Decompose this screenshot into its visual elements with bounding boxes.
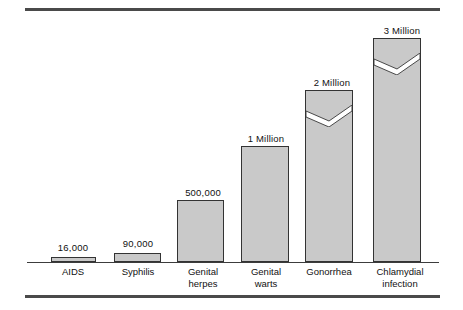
- category-label-genital-warts-line1: Genital: [251, 266, 281, 277]
- value-label-genital-herpes: 500,000: [165, 187, 241, 198]
- bar-gonorrhea[interactable]: [305, 90, 353, 262]
- bar-genital-herpes[interactable]: [177, 200, 224, 262]
- category-label-genital-herpes-line1: Genital: [188, 266, 218, 277]
- bar-syphilis[interactable]: [114, 253, 161, 262]
- category-label-chlamydial-infection-line2: infection: [358, 278, 442, 290]
- category-label-aids-line1: AIDS: [62, 266, 84, 277]
- category-label-gonorrhea: Gonorrhea: [289, 266, 369, 278]
- category-label-syphilis-line1: Syphilis: [122, 266, 155, 277]
- value-label-aids: 16,000: [40, 242, 106, 253]
- category-label-chlamydial-infection-line1: Chlamydial: [377, 266, 424, 277]
- value-label-genital-warts: 1 Million: [228, 133, 304, 144]
- bar-genital-warts[interactable]: [241, 146, 289, 262]
- value-label-gonorrhea: 2 Million: [292, 77, 372, 88]
- category-label-aids: AIDS: [40, 266, 106, 278]
- axis-break-symbol-gonorrhea: [306, 105, 352, 127]
- x-axis-baseline: [27, 262, 439, 263]
- chart-figure: 16,000 AIDS 90,000 Syphilis 500,000 Geni…: [0, 0, 463, 310]
- value-label-syphilis: 90,000: [102, 238, 174, 249]
- category-label-genital-warts-line2: warts: [228, 278, 304, 290]
- bar-aids[interactable]: [51, 257, 96, 262]
- axis-break-symbol-chlamydial-infection: [374, 53, 420, 75]
- category-label-chlamydial-infection: Chlamydial infection: [358, 266, 442, 289]
- plot-area: 16,000 AIDS 90,000 Syphilis 500,000 Geni…: [0, 0, 463, 310]
- category-label-gonorrhea-line1: Gonorrhea: [306, 266, 351, 277]
- category-label-syphilis: Syphilis: [102, 266, 174, 278]
- value-label-chlamydial-infection: 3 Million: [360, 25, 444, 36]
- bar-chlamydial-infection[interactable]: [373, 38, 421, 262]
